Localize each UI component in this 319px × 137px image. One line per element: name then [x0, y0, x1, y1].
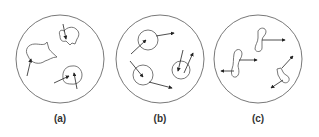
panel-a [16, 15, 104, 103]
arrow [271, 80, 283, 88]
arrow [27, 59, 31, 76]
elongated-shape [277, 68, 289, 83]
arrow [54, 76, 69, 83]
irregular-shape [59, 27, 78, 45]
arrow [184, 53, 193, 73]
arrow [149, 82, 172, 88]
arrow [178, 50, 183, 71]
container-circle [116, 15, 204, 103]
panel-label-a: (a) [54, 113, 66, 124]
elongated-shape [231, 50, 242, 78]
arrow [156, 33, 174, 36]
panel-c [214, 15, 302, 103]
arrow [63, 24, 66, 39]
panel-b [116, 15, 204, 103]
arrow [130, 61, 143, 77]
container-circle [214, 15, 302, 103]
particle-circle [138, 30, 158, 50]
panel-label-b: (b) [154, 113, 167, 124]
arrow [74, 73, 77, 89]
irregular-shape [63, 66, 82, 84]
arrow [282, 56, 293, 68]
panel-label-c: (c) [252, 113, 264, 124]
particle-circle [172, 61, 190, 79]
